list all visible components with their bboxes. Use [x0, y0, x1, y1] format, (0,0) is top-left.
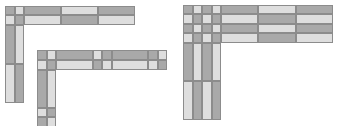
light-strand-segment: [193, 24, 202, 33]
light-strand-segment: [221, 14, 258, 24]
dark-strand-segment: [296, 5, 333, 14]
dark-strand-segment: [183, 43, 193, 81]
light-strand-segment: [193, 5, 202, 14]
dark-strand-segment: [258, 14, 296, 24]
light-strand-segment: [258, 5, 296, 14]
light-strand-segment: [193, 43, 202, 81]
dark-strand-segment: [193, 33, 202, 43]
dark-strand-segment: [258, 33, 296, 43]
light-strand-segment: [296, 14, 333, 24]
dark-strand-segment: [202, 43, 212, 81]
dark-strand-segment: [212, 33, 221, 43]
light-strand-segment: [202, 14, 212, 24]
light-strand-segment: [212, 24, 221, 33]
dark-strand-segment: [221, 5, 258, 14]
light-strand-segment: [202, 33, 212, 43]
dark-strand-segment: [212, 81, 221, 120]
dark-strand-segment: [296, 24, 333, 33]
light-strand-segment: [221, 33, 258, 43]
light-strand-segment: [183, 14, 193, 24]
dark-strand-segment: [183, 24, 193, 33]
dark-strand-segment: [212, 14, 221, 24]
light-strand-segment: [183, 81, 193, 120]
dark-strand-segment: [202, 5, 212, 14]
dark-strand-segment: [221, 24, 258, 33]
light-strand-segment: [212, 43, 221, 81]
light-strand-segment: [202, 81, 212, 120]
dark-strand-segment: [202, 24, 212, 33]
light-strand-segment: [212, 5, 221, 14]
light-strand-segment: [296, 33, 333, 43]
dark-strand-segment: [193, 14, 202, 24]
figure-3-l-shape-four-strand: [0, 0, 339, 126]
dark-strand-segment: [193, 81, 202, 120]
light-strand-segment: [183, 33, 193, 43]
light-strand-segment: [258, 24, 296, 33]
dark-strand-segment: [183, 5, 193, 14]
